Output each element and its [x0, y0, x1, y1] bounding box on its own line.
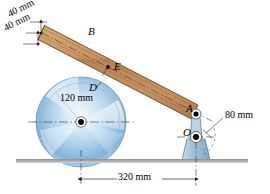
ground-line — [16, 159, 248, 163]
mechanism-figure: 40 mm 40 mm B E D 120 mm A O 80 mm 320 m… — [0, 0, 270, 194]
disk-assembly — [28, 77, 136, 167]
pin-A-dot — [193, 111, 198, 116]
disk-hub-pin — [78, 119, 84, 125]
label-disk-radius: 120 mm — [60, 93, 93, 103]
label-point-B: B — [88, 26, 95, 37]
label-base-distance: 320 mm — [118, 172, 151, 182]
label-point-E: E — [114, 61, 121, 72]
label-pin-O: O — [183, 127, 191, 138]
label-pin-A: A — [186, 103, 193, 114]
label-crank-radius: 80 mm — [225, 110, 253, 120]
figure-canvas — [0, 0, 270, 194]
